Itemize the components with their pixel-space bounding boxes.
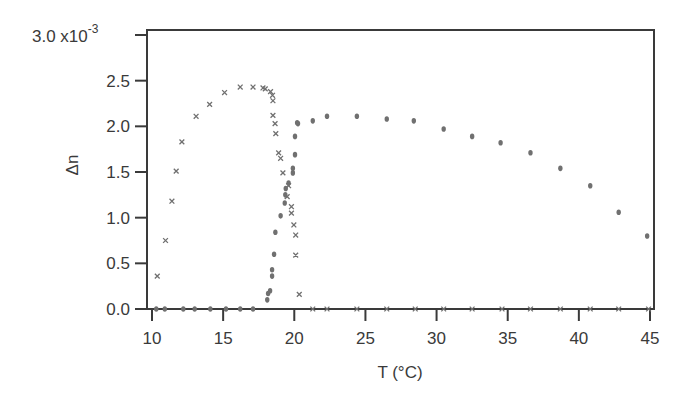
data-point-circle [286, 180, 290, 186]
data-point-circle [251, 306, 255, 312]
data-point-cross [207, 102, 212, 107]
data-point-circle [385, 116, 389, 122]
data-point-cross [278, 156, 283, 161]
data-point-circle [412, 118, 416, 124]
data-point-circle [273, 229, 277, 235]
data-point-cross [174, 169, 179, 174]
x-tick-label: 35 [498, 329, 517, 348]
y-tick-label: 0.5 [106, 254, 130, 273]
x-axis: 1015202530354045 [143, 309, 660, 348]
x-tick-label: 40 [569, 329, 588, 348]
data-point-circle [270, 273, 274, 279]
data-point-cross [293, 233, 298, 238]
data-point-cross [276, 150, 281, 155]
data-point-circle [181, 306, 185, 312]
data-point-cross [222, 90, 227, 95]
data-point-circle [154, 306, 158, 312]
x-axis-label: T (°C) [377, 363, 422, 382]
x-tick-label: 15 [214, 329, 233, 348]
y-tick-label: 1.5 [106, 163, 130, 182]
data-point-circle [616, 209, 620, 215]
y-axis: 0.00.51.01.52.02.5 [106, 35, 147, 319]
data-point-circle [224, 306, 228, 312]
chart: 1015202530354045 0.00.51.01.52.02.5 T (°… [0, 0, 693, 406]
data-point-cross [163, 238, 168, 243]
y-tick-label: 2.0 [106, 117, 130, 136]
data-point-cross [273, 121, 278, 126]
data-point-circle [588, 183, 592, 189]
data-point-circle [270, 267, 274, 273]
data-point-cross [281, 171, 286, 176]
data-point-circle [355, 113, 359, 119]
data-point-circle [208, 306, 212, 312]
data-point-cross [194, 114, 199, 119]
data-point-cross [271, 113, 276, 118]
plot-frame [147, 30, 654, 309]
plot-border [147, 30, 654, 309]
data-point-circle [284, 186, 288, 192]
x-tick-label: 30 [427, 329, 446, 348]
data-point-circle [296, 121, 300, 127]
data-point-cross [293, 253, 298, 258]
data-point-circle [272, 251, 276, 257]
data-point-circle [238, 306, 242, 312]
y-tick-label: 0.0 [106, 300, 130, 319]
x-tick-label: 25 [356, 329, 375, 348]
y-tick-label: 1.0 [106, 209, 130, 228]
data-point-cross [291, 223, 296, 228]
data-point-cross [297, 292, 302, 297]
data-point-circle [268, 288, 272, 294]
x-tick-label: 10 [143, 329, 162, 348]
data-point-circle [558, 166, 562, 172]
data-point-circle [528, 150, 532, 156]
data-markers [154, 85, 651, 312]
data-point-circle [293, 152, 297, 158]
data-point-circle [283, 200, 287, 206]
data-point-cross [271, 98, 276, 103]
x-tick-label: 45 [641, 329, 660, 348]
data-point-circle [311, 118, 315, 124]
data-point-cross [289, 211, 294, 216]
data-point-circle [291, 166, 295, 172]
data-point-cross [179, 139, 184, 144]
data-point-cross [251, 85, 256, 90]
data-point-cross [289, 204, 294, 209]
data-point-circle [283, 192, 287, 198]
y-tick-label: 2.5 [106, 72, 130, 91]
data-point-cross [238, 85, 243, 90]
data-point-circle [265, 297, 269, 303]
data-point-circle [441, 126, 445, 132]
data-point-circle [278, 213, 282, 219]
data-point-circle [192, 306, 196, 312]
x-tick-label: 20 [285, 329, 304, 348]
y-axis-multiplier: 3.0 x10-3 [32, 22, 99, 46]
y-axis-label: Δn [63, 155, 82, 176]
data-point-circle [498, 140, 502, 146]
data-point-circle [325, 113, 329, 119]
data-point-cross [155, 274, 160, 279]
data-point-circle [470, 134, 474, 140]
data-point-circle [293, 134, 297, 140]
data-point-circle [163, 306, 167, 312]
data-point-cross [273, 131, 278, 136]
data-point-cross [170, 199, 175, 204]
data-point-circle [645, 233, 649, 239]
